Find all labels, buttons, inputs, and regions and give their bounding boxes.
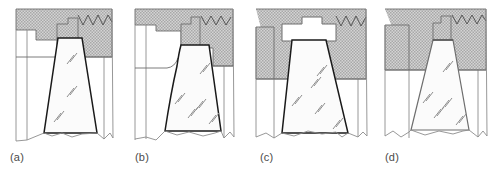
- sheet-right-edge: [366, 9, 367, 136]
- panel-b: (b): [125, 0, 250, 180]
- sheet-right-edge: [486, 9, 487, 136]
- sheet-right-edge: [233, 9, 234, 137]
- panel-d: (d): [375, 0, 500, 180]
- panel-c-label: (c): [260, 152, 273, 163]
- root-wavy-line: [16, 133, 113, 141]
- root-wavy-line: [256, 131, 367, 138]
- panel-a-drawing: [0, 0, 125, 150]
- figure-container: (a): [0, 0, 502, 180]
- panel-d-drawing: [375, 0, 502, 150]
- root-wavy-line: [135, 131, 234, 140]
- panel-c: (c): [250, 0, 375, 180]
- panel-b-drawing: [125, 0, 250, 150]
- faying-interface-line-left: [135, 58, 178, 68]
- panel-b-label: (b): [135, 152, 149, 163]
- panel-a: (a): [0, 0, 125, 180]
- panel-a-label: (a): [10, 152, 24, 163]
- sheet-right-edge: [112, 9, 113, 138]
- root-wavy-line: [385, 130, 487, 137]
- panel-d-label: (d): [385, 152, 399, 163]
- panel-c-drawing: [250, 0, 375, 150]
